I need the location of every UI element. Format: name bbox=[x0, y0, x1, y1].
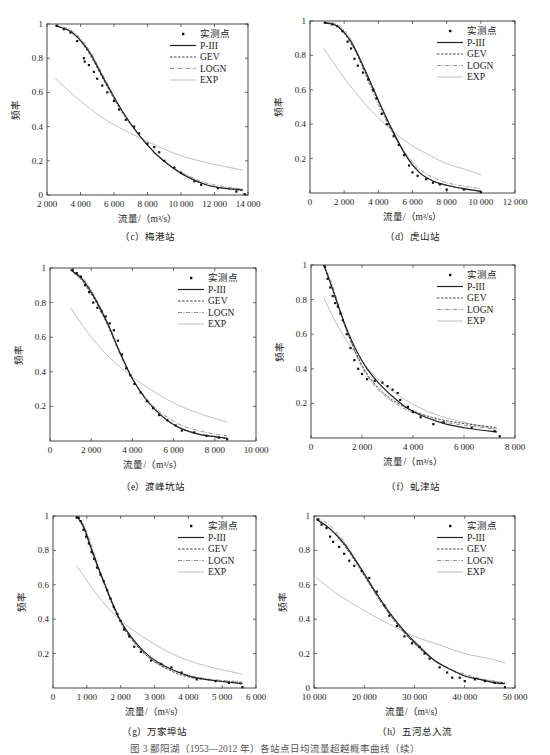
observed-point bbox=[88, 64, 90, 66]
observed-point bbox=[106, 589, 108, 591]
x-tick-label: 4 000 bbox=[122, 445, 143, 455]
observed-point bbox=[90, 551, 92, 553]
observed-point bbox=[342, 319, 344, 321]
observed-point bbox=[357, 368, 359, 370]
observed-point bbox=[418, 646, 420, 648]
panel-caption: （g）万家埠站 bbox=[122, 726, 187, 737]
y-tick-label: 0.6 bbox=[32, 87, 44, 97]
observed-point bbox=[166, 419, 168, 421]
observed-point bbox=[80, 276, 82, 278]
y-axis-label: 频率 bbox=[16, 592, 27, 612]
observed-point bbox=[411, 642, 413, 644]
observed-point bbox=[180, 671, 182, 673]
y-tick-label: 1 bbox=[39, 19, 44, 29]
observed-point bbox=[346, 41, 348, 43]
observed-point bbox=[113, 100, 115, 102]
y-tick-label: 1 bbox=[306, 511, 311, 521]
chart-panel-h: 10 00020 00030 00040 00050 00000.20.40.6… bbox=[277, 511, 528, 737]
x-tick-label: 8 000 bbox=[505, 442, 526, 452]
observed-point bbox=[504, 686, 506, 688]
legend-label-logn: LOGN bbox=[467, 305, 494, 315]
x-axis-label: 流量/（m³/s） bbox=[123, 459, 182, 470]
observed-point bbox=[499, 435, 501, 437]
observed-point bbox=[332, 541, 334, 543]
observed-point bbox=[432, 423, 434, 425]
x-tick-label: 14 000 bbox=[236, 199, 261, 209]
observed-point bbox=[446, 188, 448, 190]
x-tick-label: 4 000 bbox=[178, 692, 199, 702]
observed-point bbox=[170, 666, 172, 668]
observed-point bbox=[357, 65, 359, 67]
observed-point bbox=[366, 378, 368, 380]
legend-marker-observed bbox=[190, 525, 192, 527]
legend-label-logn: LOGN bbox=[467, 556, 494, 566]
observed-point bbox=[180, 172, 182, 174]
figure-caption: 图 3 鄱阳湖（1953—2012 年）各站点日均流量超越概率曲线（续） bbox=[130, 743, 419, 754]
legend-label-logn: LOGN bbox=[208, 308, 235, 318]
observed-point bbox=[494, 430, 496, 432]
x-tick-label: 6 000 bbox=[104, 199, 125, 209]
y-tick-label: 0.4 bbox=[38, 614, 50, 624]
series-line-exp bbox=[71, 308, 228, 422]
x-tick-label: 0 bbox=[309, 442, 314, 452]
observed-point bbox=[63, 28, 65, 30]
observed-point bbox=[218, 436, 220, 438]
observed-point bbox=[326, 278, 328, 280]
observed-point bbox=[329, 536, 331, 538]
legend-label-gev: GEV bbox=[467, 293, 487, 303]
legend-label-p3: P-III bbox=[208, 285, 226, 295]
observed-point bbox=[343, 553, 345, 555]
x-tick-label: 20 000 bbox=[352, 692, 377, 702]
observed-point bbox=[200, 184, 202, 186]
observed-point bbox=[417, 175, 419, 177]
legend-label-observed: 实测点 bbox=[208, 272, 238, 283]
x-tick-label: 2 000 bbox=[37, 199, 58, 209]
observed-point bbox=[432, 182, 434, 184]
x-tick-label: 8 000 bbox=[137, 199, 158, 209]
legend-marker-observed bbox=[190, 277, 192, 279]
observed-point bbox=[381, 382, 383, 384]
observed-point bbox=[407, 406, 409, 408]
series-line-gev bbox=[324, 23, 481, 192]
x-tick-label: 2 000 bbox=[111, 692, 132, 702]
x-tick-label: 4 000 bbox=[70, 199, 91, 209]
observed-point bbox=[412, 411, 414, 413]
observed-point bbox=[93, 558, 95, 560]
observed-point bbox=[153, 146, 155, 148]
legend-label-exp: EXP bbox=[208, 567, 226, 577]
chart-panel-g: 01 0002 0003 0004 0005 0006 0000.20.40.6… bbox=[16, 511, 267, 737]
x-tick-label: 3 000 bbox=[144, 692, 165, 702]
observed-point bbox=[160, 663, 162, 665]
y-tick-label: 0 bbox=[306, 683, 311, 693]
observed-point bbox=[324, 266, 326, 268]
panel-caption: （e）渡峰坑站 bbox=[121, 481, 185, 492]
observed-point bbox=[93, 71, 95, 73]
observed-point bbox=[140, 651, 142, 653]
legend-label-exp: EXP bbox=[467, 567, 485, 577]
y-axis-label: 频率 bbox=[273, 97, 284, 117]
y-tick-label: 0.2 bbox=[296, 398, 307, 408]
y-tick-label: 0.4 bbox=[35, 367, 47, 377]
observed-point bbox=[317, 518, 319, 520]
observed-point bbox=[120, 620, 122, 622]
observed-point bbox=[403, 154, 405, 156]
observed-point bbox=[152, 407, 154, 409]
observed-point bbox=[376, 591, 378, 593]
observed-point bbox=[163, 160, 165, 162]
legend-label-gev: GEV bbox=[208, 296, 228, 306]
y-tick-label: 0.8 bbox=[296, 295, 308, 305]
x-tick-label: 4 000 bbox=[368, 197, 389, 207]
observed-point bbox=[325, 527, 327, 529]
observed-point bbox=[451, 677, 453, 679]
observed-point bbox=[408, 164, 410, 166]
chart-panel-f: 02 0004 0006 0008 0000.20.40.60.81流量/（m³… bbox=[274, 260, 526, 492]
legend-label-gev: GEV bbox=[208, 544, 228, 554]
observed-point bbox=[146, 143, 148, 145]
y-tick-label: 0.6 bbox=[38, 580, 50, 590]
observed-point bbox=[480, 191, 482, 193]
legend-label-logn: LOGN bbox=[467, 61, 494, 71]
series-line-logn bbox=[71, 270, 228, 436]
legend-label-exp: EXP bbox=[467, 72, 485, 82]
legend-label-observed: 实测点 bbox=[467, 520, 497, 531]
observed-point bbox=[346, 333, 348, 335]
